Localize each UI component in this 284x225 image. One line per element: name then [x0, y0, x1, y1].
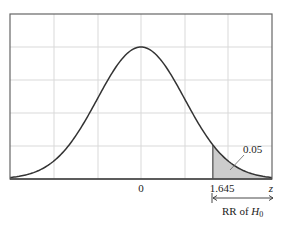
- rejection-region-arrow: [212, 193, 273, 203]
- tick-label-critical: 1.645: [210, 182, 235, 194]
- tick-label-zero: 0: [138, 182, 144, 194]
- rr-label: RR of H0: [222, 205, 263, 219]
- grid: [10, 14, 272, 179]
- normal-curve-chart: 0.05 0 1.645 z RR of H0: [0, 0, 284, 225]
- area-label: 0.05: [243, 143, 263, 155]
- axis-label-z: z: [268, 182, 274, 194]
